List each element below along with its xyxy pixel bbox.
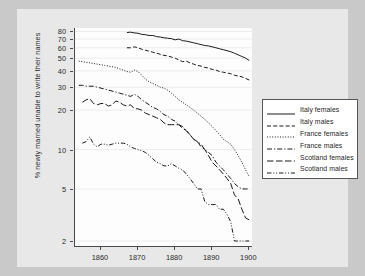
y-tick-label: 60 — [40, 43, 66, 52]
y-tick-label: 5 — [40, 184, 66, 193]
y-tick-mark — [70, 150, 73, 151]
chart-screenshot: 807060504030201052 % newly married unabl… — [0, 0, 365, 276]
y-tick-mark — [70, 87, 73, 88]
y-tick-label: 70 — [40, 35, 66, 44]
y-tick-label: 50 — [40, 54, 66, 63]
legend-item-italy-females: Italy females — [266, 104, 354, 116]
legend-label: France females — [300, 130, 348, 137]
legend-item-italy-males: Italy males — [266, 116, 354, 128]
x-tick-label: 1880 — [166, 253, 182, 262]
y-tick-label: 10 — [40, 145, 66, 154]
legend-key-dashed — [266, 117, 296, 127]
x-tick-label: 1900 — [240, 253, 256, 262]
legend-item-scotland-males: Scotland males — [266, 163, 354, 175]
legend-key-dashdotdot — [266, 164, 296, 174]
y-tick-mark — [70, 48, 73, 49]
x-tick-mark — [137, 247, 138, 250]
figure-canvas: 807060504030201052 % newly married unabl… — [17, 9, 348, 267]
legend-item-france-females: France females — [266, 128, 354, 140]
y-tick-mark — [70, 58, 73, 59]
x-tick-mark — [100, 247, 101, 250]
legend-label: France males — [300, 142, 342, 149]
x-tick-label: 1890 — [203, 253, 219, 262]
legend-key-dashdot — [266, 140, 296, 150]
legend-label: Scotland males — [300, 165, 348, 172]
plot-area — [74, 28, 252, 247]
x-tick-mark — [174, 247, 175, 250]
y-tick-label: 20 — [40, 106, 66, 115]
legend-label: Italy females — [300, 106, 339, 113]
y-tick-label: 30 — [40, 83, 66, 92]
y-tick-label: 2 — [40, 237, 66, 246]
legend-key-dotted — [266, 128, 296, 138]
y-axis-title: % newly married unable to write their na… — [33, 0, 42, 256]
legend: Italy femalesItaly malesFrance femalesFr… — [262, 99, 358, 179]
y-tick-label: 40 — [40, 66, 66, 75]
series-lines — [75, 28, 253, 247]
y-tick-mark — [70, 110, 73, 111]
x-tick-mark — [211, 247, 212, 250]
y-tick-mark — [70, 71, 73, 72]
legend-item-france-males: France males — [266, 139, 354, 151]
y-tick-mark — [70, 241, 73, 242]
y-axis: 807060504030201052 — [36, 28, 74, 248]
y-tick-mark — [70, 189, 73, 190]
series-line-scotland-females — [82, 99, 249, 220]
y-tick-mark — [70, 31, 73, 32]
series-line-italy-females — [127, 32, 249, 60]
series-line-france-females — [79, 61, 250, 177]
x-tick-label: 1860 — [92, 253, 108, 262]
legend-item-scotland-females: Scotland females — [266, 151, 354, 163]
x-tick-mark — [248, 247, 249, 250]
y-tick-mark — [70, 39, 73, 40]
x-axis: 18601870188018901900 — [74, 247, 252, 267]
legend-key-longdash — [266, 152, 296, 162]
legend-key-solid — [266, 105, 296, 115]
x-tick-label: 1870 — [129, 253, 145, 262]
legend-label: Scotland females — [300, 154, 354, 161]
legend-label: Italy males — [300, 118, 333, 125]
series-line-france-males — [79, 85, 250, 189]
